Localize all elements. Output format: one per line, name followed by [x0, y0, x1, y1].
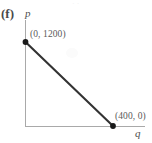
data-point-p-intercept: [23, 39, 29, 45]
data-point-q-intercept: [110, 123, 116, 129]
figure-panel: · · (f) p q (0, 1200) (400, 0): [0, 0, 152, 143]
point-label-q-intercept: (400, 0): [115, 111, 146, 122]
point-label-p-intercept: (0, 1200): [30, 29, 66, 40]
demand-line-segment: [26, 42, 114, 126]
